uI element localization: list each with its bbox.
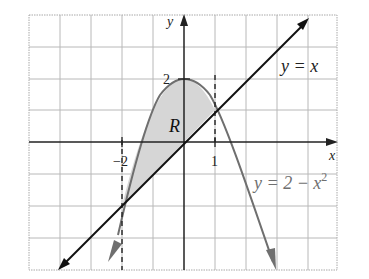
tick-label-y-2: 2 [163,72,170,87]
region-diagram: y x 2 −2 1 R y = x y = 2 − x2 [0,0,369,279]
line-y-equals-x [64,22,306,264]
y-axis-label: y [165,14,174,29]
tick-label-x-1: 1 [211,154,218,169]
line-label: y = x [279,56,318,76]
parabola-label-exp: 2 [321,170,327,184]
region-label: R [168,116,180,136]
tick-label-x-neg2: −2 [113,154,128,169]
x-axis-label: x [328,148,336,163]
parabola-label: y = 2 − x2 [252,170,327,193]
parabola-label-base: y = 2 − x [252,173,321,193]
y-axis-arrow-icon [180,14,188,26]
parabola-arrow-right-icon [266,248,276,270]
parabola-arrow-left-icon [108,240,122,262]
x-axis-arrow-icon [326,138,338,146]
